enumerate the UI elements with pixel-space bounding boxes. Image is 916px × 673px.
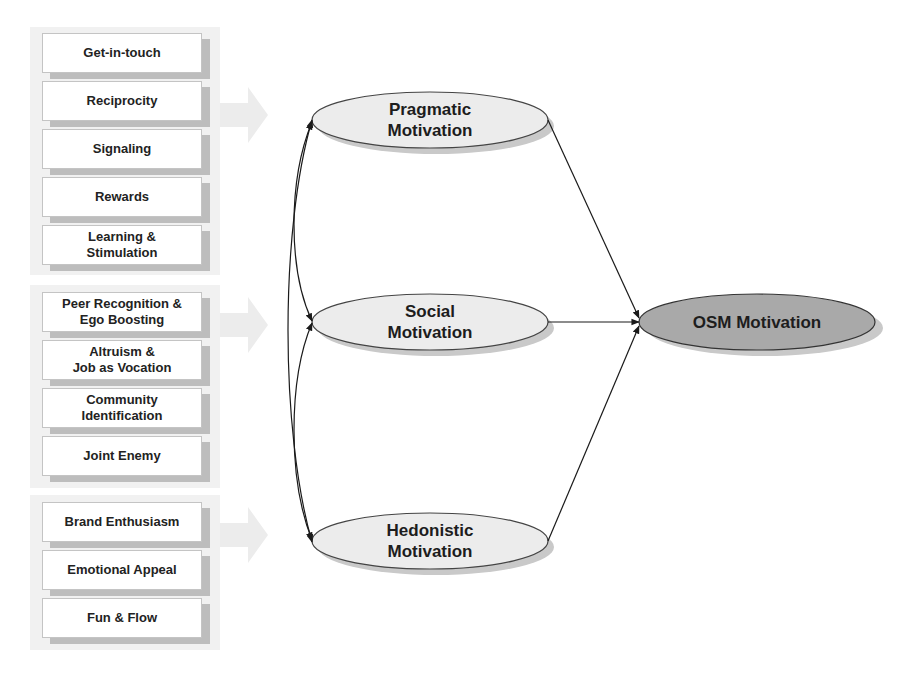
label-social: Social Motivation (312, 294, 548, 350)
label-osm: OSM Motivation (639, 294, 875, 350)
label-hedonistic: Hedonistic Motivation (312, 513, 548, 569)
label-pragmatic: Pragmatic Motivation (312, 92, 548, 148)
